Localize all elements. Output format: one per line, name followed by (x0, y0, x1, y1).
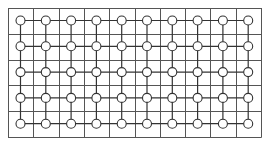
node-connectors (21, 21, 249, 124)
node-circle (193, 93, 202, 102)
node-circle (218, 42, 227, 51)
node-circle (92, 93, 101, 102)
node-circle (16, 68, 25, 77)
node-circle (67, 42, 76, 51)
node-circle (244, 119, 253, 128)
grid-lattice-diagram (0, 0, 268, 145)
node-circle (16, 93, 25, 102)
node-circle (218, 119, 227, 128)
node-circle (67, 68, 76, 77)
node-circle (41, 16, 50, 25)
node-circle (92, 42, 101, 51)
node-circle (193, 16, 202, 25)
node-circle (67, 119, 76, 128)
node-circle (193, 119, 202, 128)
node-circle (218, 93, 227, 102)
node-circle (244, 16, 253, 25)
node-circle (218, 16, 227, 25)
node-circle (193, 68, 202, 77)
node-circle (244, 42, 253, 51)
node-circle (143, 93, 152, 102)
node-circle (244, 68, 253, 77)
node-circle (168, 119, 177, 128)
node-circle (168, 68, 177, 77)
node-circle (193, 42, 202, 51)
node-circle (41, 42, 50, 51)
node-circle (117, 93, 126, 102)
node-circle (92, 119, 101, 128)
node-circle (67, 16, 76, 25)
node-circle (168, 42, 177, 51)
node-circle (244, 93, 253, 102)
node-circle (92, 16, 101, 25)
node-circle (117, 42, 126, 51)
node-circle (117, 16, 126, 25)
node-circle (67, 93, 76, 102)
node-circle (16, 119, 25, 128)
node-circle (41, 93, 50, 102)
node-circle (41, 68, 50, 77)
node-circle (143, 119, 152, 128)
node-circle (16, 42, 25, 51)
node-circle (117, 68, 126, 77)
node-circle (218, 68, 227, 77)
node-circle (16, 16, 25, 25)
node-circle (117, 119, 126, 128)
node-circle (168, 93, 177, 102)
node-circle (92, 68, 101, 77)
node-circle (143, 16, 152, 25)
node-circle (168, 16, 177, 25)
node-circle (143, 68, 152, 77)
node-circle (143, 42, 152, 51)
node-circle (41, 119, 50, 128)
